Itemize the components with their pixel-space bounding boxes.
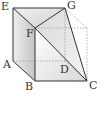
label-d: D [60, 63, 69, 76]
label-c: C [89, 79, 97, 92]
label-b: B [25, 80, 33, 93]
geometry-diagram: E G F A B C D [0, 0, 106, 114]
label-f: F [26, 27, 34, 40]
label-a: A [2, 58, 12, 71]
label-g: G [67, 0, 76, 12]
label-e: E [1, 0, 9, 13]
